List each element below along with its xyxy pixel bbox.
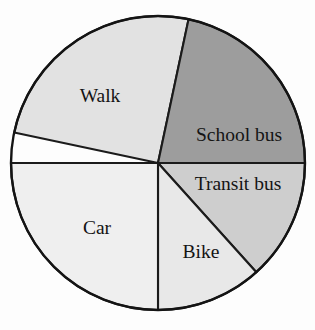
pie-chart-svg: WalkSchool busTransit busBikeCar [0,0,315,330]
pie-slices-group [11,16,305,310]
pie-slice-label-car: Car [83,217,112,238]
pie-slice-label-walk: Walk [80,85,121,106]
pie-chart-figure: WalkSchool busTransit busBikeCar [0,0,315,330]
pie-slice-label-bike: Bike [183,241,220,262]
pie-slice-label-school-bus: School bus [196,124,282,145]
pie-slice-label-transit-bus: Transit bus [195,173,282,194]
